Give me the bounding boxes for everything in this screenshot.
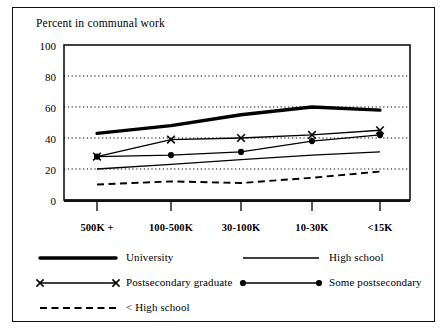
legend-label-high-school: High school [329, 251, 384, 263]
marker-dot [240, 280, 246, 286]
marker-dot [94, 154, 100, 160]
marker-dot [377, 132, 383, 138]
marker-dot [316, 280, 322, 286]
legend-label-less-than-high-school: < High school [126, 301, 190, 313]
legend-label-university: University [126, 251, 173, 263]
legend-label-some-postsecondary: Some postsecondary [329, 276, 422, 288]
marker-dot [309, 138, 315, 144]
marker-dot [238, 149, 244, 155]
legend-label-postsecondary-graduate: Postsecondary graduate [126, 276, 232, 288]
figure-container: Percent in communal work 100 80 60 40 20… [0, 0, 448, 336]
plot-area-frame [64, 45, 410, 200]
marker-dot [168, 152, 174, 158]
